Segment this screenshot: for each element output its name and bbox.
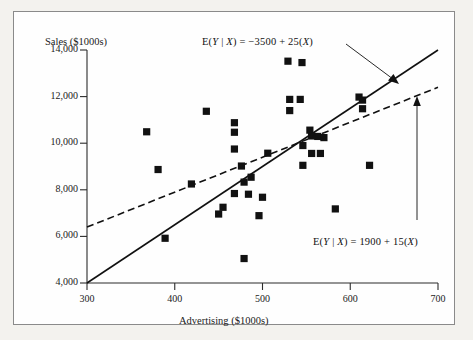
data-point (247, 174, 254, 181)
y-tick-label: 8,000 (36, 183, 78, 194)
data-point (245, 191, 252, 198)
y-tick-label: 6,000 (36, 229, 78, 240)
data-point (231, 145, 238, 152)
figure-container: Sales ($1000s) Advertising ($1000s) E(Y … (0, 0, 473, 340)
eq-shallow-mid: ) = 1900 + 15( (344, 236, 408, 247)
data-point (162, 235, 169, 242)
data-point (359, 97, 366, 104)
data-point (259, 194, 266, 201)
eq-shallow-tail: ) (414, 236, 418, 247)
data-point (297, 96, 304, 103)
data-point (298, 59, 305, 66)
x-tick-label: 500 (243, 293, 283, 304)
data-point (286, 107, 293, 114)
data-point (284, 58, 291, 65)
data-point (188, 180, 195, 187)
scatter-plot-canvas (14, 12, 456, 326)
data-point (240, 255, 247, 262)
data-points-layer (143, 58, 373, 263)
y-tick-marks (80, 50, 87, 283)
shallow-line-equation-label: E(Y | X) = 1900 + 15(X) (313, 236, 418, 247)
data-point (231, 190, 238, 197)
eq-steep-tail: ) (309, 36, 313, 47)
shallow-regression-line (87, 87, 438, 227)
data-point (238, 162, 245, 169)
eq-steep-lead: E( (202, 36, 212, 47)
data-point (143, 128, 150, 135)
data-point (308, 132, 315, 139)
steep-line-equation-label: E(Y | X) = −3500 + 25(X) (202, 36, 313, 47)
data-point (332, 205, 339, 212)
y-tick-label: 10,000 (36, 136, 78, 147)
y-tick-label: 12,000 (36, 90, 78, 101)
x-tick-label: 400 (155, 293, 195, 304)
data-point (154, 166, 161, 173)
x-tick-label: 700 (418, 293, 458, 304)
data-point (231, 119, 238, 126)
data-point (286, 96, 293, 103)
data-point (359, 105, 366, 112)
eq-shallow-lead: E( (313, 236, 323, 247)
data-point (231, 129, 238, 136)
x-axis-title: Advertising ($1000s) (179, 315, 269, 326)
data-point (314, 133, 321, 140)
y-tick-label: 14,000 (36, 43, 78, 54)
steep-equation-arrow (346, 44, 399, 84)
eq-steep-var-x: X (226, 36, 233, 47)
data-point (203, 108, 210, 115)
data-point (320, 134, 327, 141)
data-point (299, 162, 306, 169)
data-point (264, 150, 271, 157)
x-tick-label: 300 (67, 293, 107, 304)
steep-regression-line (87, 50, 438, 283)
data-point (240, 179, 247, 186)
data-point (255, 212, 262, 219)
data-point (308, 150, 315, 157)
data-point (219, 204, 226, 211)
data-point (215, 210, 222, 217)
x-tick-marks (87, 283, 438, 290)
data-point (299, 142, 306, 149)
shallow-equation-arrow (413, 96, 421, 220)
x-tick-label: 600 (330, 293, 370, 304)
eq-steep-mid: ) = −3500 + 25( (233, 36, 303, 47)
figure-frame: Sales ($1000s) Advertising ($1000s) E(Y … (13, 11, 455, 325)
data-point (366, 162, 373, 169)
eq-shallow-var-x: X (337, 236, 344, 247)
data-point (317, 150, 324, 157)
y-tick-label: 4,000 (36, 276, 78, 287)
